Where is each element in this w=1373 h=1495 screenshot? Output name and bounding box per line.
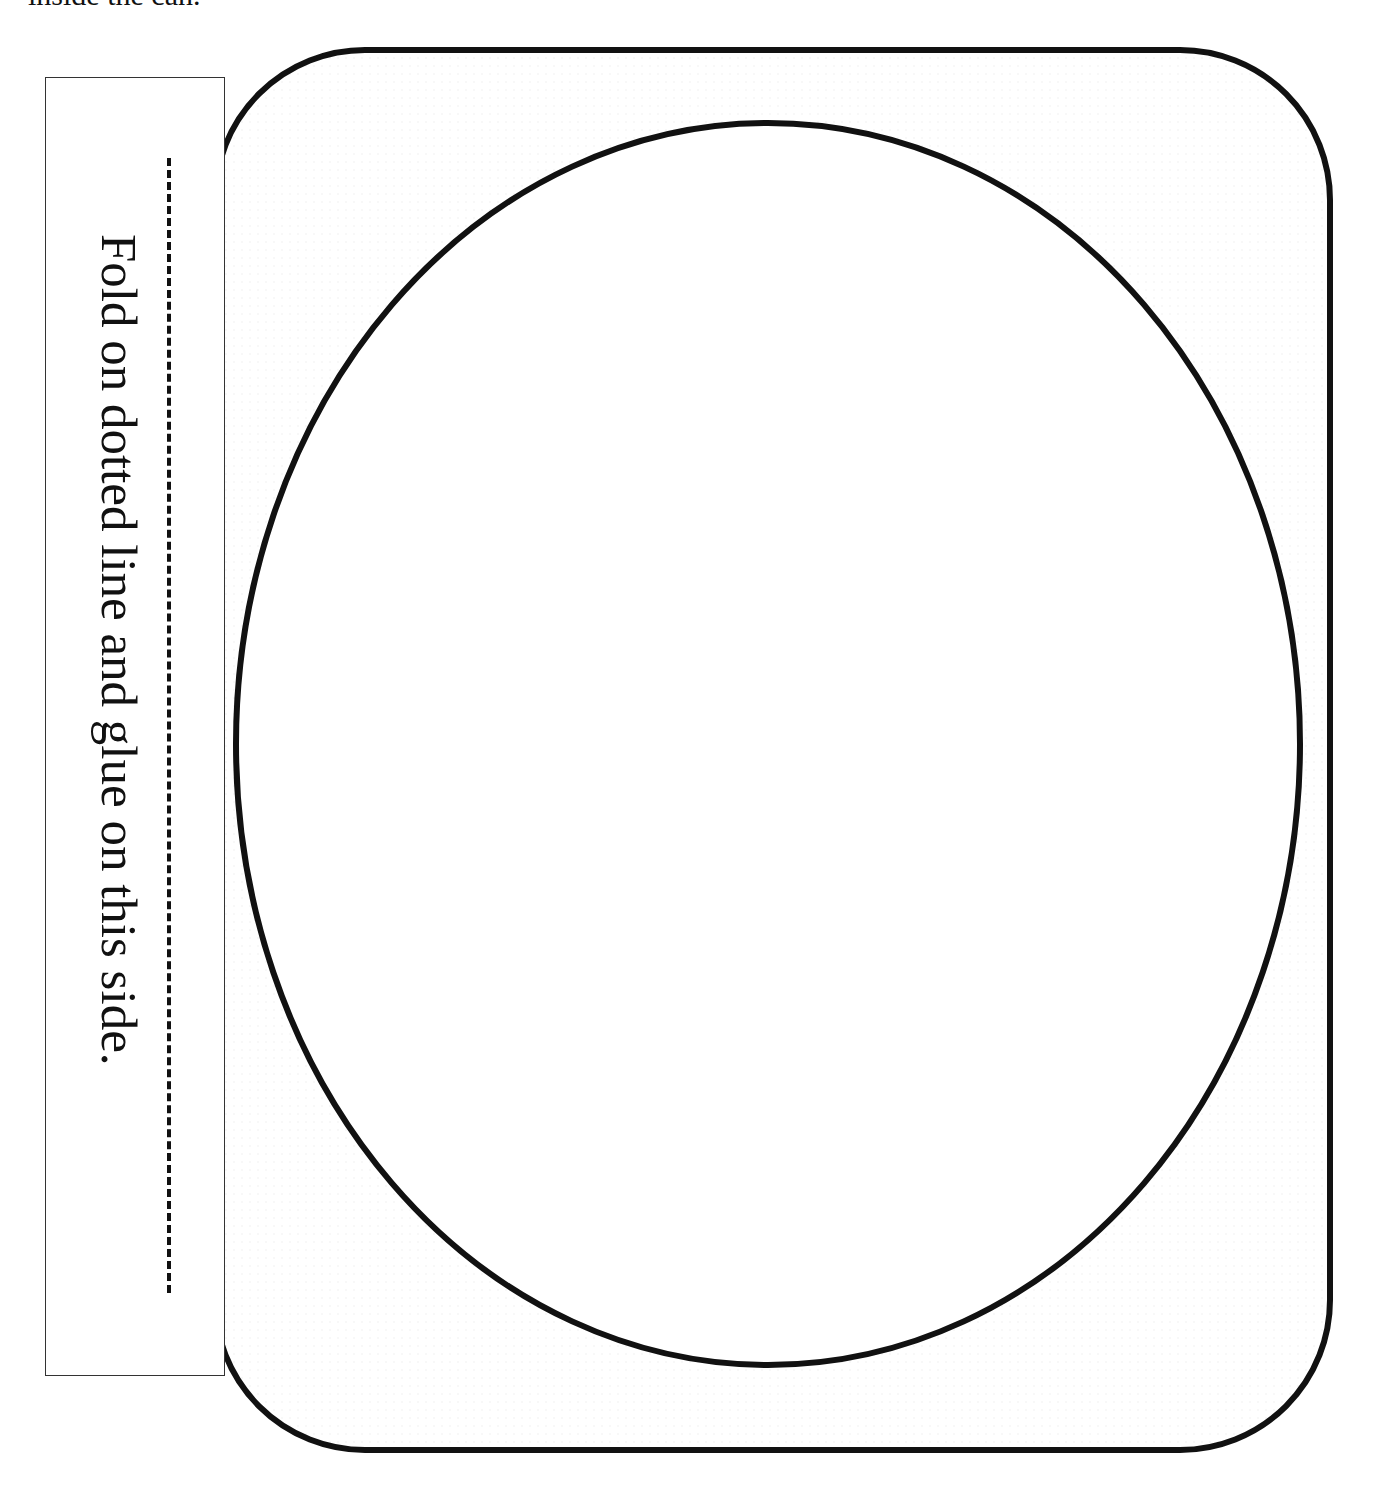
inner-oval [236,123,1300,1365]
fold-instruction-text: Fold on dotted line and glue on this sid… [93,234,144,1066]
fold-dotted-line [167,158,171,1293]
glue-tab: Fold on dotted line and glue on this sid… [45,77,225,1376]
